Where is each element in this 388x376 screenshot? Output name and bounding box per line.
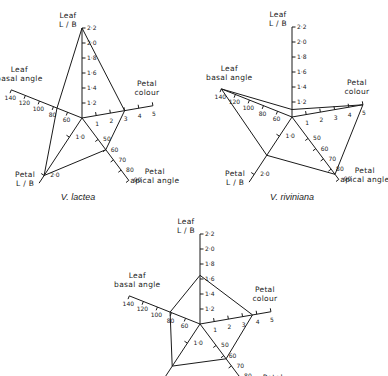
tick-label: 120 xyxy=(137,305,149,312)
axis-label: colour xyxy=(344,87,370,96)
radar-chart-third-species: 1·21·41·61·82·02·2LeafL / B12345Petalcol… xyxy=(114,217,297,376)
axis-label: L / B xyxy=(16,179,34,188)
tick-label: 60 xyxy=(273,115,281,122)
axis-label: basal angle xyxy=(114,280,161,289)
tick-label: 5 xyxy=(362,109,366,116)
tick-label: 3 xyxy=(124,115,128,122)
tick-label: 100 xyxy=(33,105,45,112)
species-caption: V. riviniana xyxy=(270,192,314,202)
axis-label: L / B xyxy=(177,226,195,235)
tick-label: 1·2 xyxy=(297,98,307,105)
axis-label: Petal xyxy=(15,170,35,179)
tick-label: 80 xyxy=(259,110,267,117)
radar-chart-v-lactea: 1·21·41·61·82·02·2LeafL / B12345Petalcol… xyxy=(0,11,179,202)
tick-label: 1·8 xyxy=(87,54,97,61)
axis-label: apical angle xyxy=(130,176,179,185)
tick-label: 50 xyxy=(313,134,321,141)
tick-label: 2·0 xyxy=(205,245,215,252)
axis-label: Leaf xyxy=(11,65,28,74)
axis-leaf-lb: 1·21·41·61·82·02·2LeafL / B xyxy=(269,10,307,117)
tick-label: 140 xyxy=(123,300,135,307)
tick-label: 100 xyxy=(243,104,255,111)
axis-label: basal angle xyxy=(206,73,253,82)
tick-label: 1·8 xyxy=(297,53,307,60)
tick-label: 70 xyxy=(118,156,126,163)
tick-label: 2·0 xyxy=(260,170,270,177)
axis-label: colour xyxy=(134,88,160,97)
axis-label: Leaf xyxy=(269,10,286,19)
axis-label: Leaf xyxy=(221,64,238,73)
axis-label: L / B xyxy=(269,19,287,28)
data-polygon xyxy=(170,275,252,366)
tick-label: 1·8 xyxy=(205,260,215,267)
species-caption: V. lactea xyxy=(61,192,95,202)
axis-leaf-lb: 1·21·41·61·82·02·2LeafL / B xyxy=(177,217,215,324)
tick-label: 4 xyxy=(348,111,352,118)
axis-petal-lb: 1·02·0PetalL / B xyxy=(133,324,203,376)
tick-label: 1·0 xyxy=(285,132,295,139)
tick-label: 1 xyxy=(213,326,217,333)
tick-label: 1·6 xyxy=(205,275,215,282)
tick-label: 1 xyxy=(95,120,99,127)
axis-label: Leaf xyxy=(177,217,194,226)
axis-leaf-basal-angle: 6080100120140Leafbasal angle xyxy=(206,64,292,122)
tick-label: 1·2 xyxy=(87,99,97,106)
axis-label: Leaf xyxy=(59,11,76,20)
tick-label: 1·2 xyxy=(205,305,215,312)
tick-label: 70 xyxy=(328,155,336,162)
tick-label: 1·4 xyxy=(297,83,307,90)
axis-petal-apical-angle: 5060708090Petalapical angle xyxy=(82,118,179,185)
axis-label: Petal xyxy=(255,285,275,294)
tick-label: 3 xyxy=(334,114,338,121)
tick-label: 2 xyxy=(227,323,231,330)
axis-petal-lb: 1·02·0PetalL / B xyxy=(225,117,295,187)
tick-label: 1·6 xyxy=(297,68,307,75)
tick-label: 70 xyxy=(236,362,244,369)
tick-label: 60 xyxy=(321,145,329,152)
tick-label: 50 xyxy=(221,341,229,348)
star-diagram-figure: 1·21·41·61·82·02·2LeafL / B12345Petalcol… xyxy=(0,0,388,376)
tick-label: 1·0 xyxy=(75,133,85,140)
axis-petal-lb: 1·02·0PetalL / B xyxy=(15,118,85,188)
tick-label: 2·2 xyxy=(297,23,307,30)
tick-label: 120 xyxy=(19,99,31,106)
axis-label: L / B xyxy=(59,20,77,29)
axis-leaf-lb: 1·21·41·61·82·02·2LeafL / B xyxy=(59,11,97,118)
data-polygon xyxy=(44,28,125,176)
axis-petal-apical-angle: 5060708090Petalapical angle xyxy=(292,117,388,184)
tick-label: 4 xyxy=(138,112,142,119)
tick-label: 2 xyxy=(109,117,113,124)
radar-chart-v-riviniana: 1·21·41·61·82·02·2LeafL / B12345Petalcol… xyxy=(206,10,388,202)
axis-label: Petal xyxy=(225,169,245,178)
tick-label: 100 xyxy=(151,311,163,318)
tick-label: 2·2 xyxy=(205,230,215,237)
tick-label: 1·0 xyxy=(193,339,203,346)
tick-label: 5 xyxy=(270,316,274,323)
axis-label: Petal xyxy=(355,166,375,175)
tick-label: 1·4 xyxy=(87,84,97,91)
tick-label: 80 xyxy=(126,166,134,173)
tick-label: 1·4 xyxy=(205,290,215,297)
axis-label: Petal xyxy=(137,79,157,88)
tick-label: 1·6 xyxy=(87,69,97,76)
axis-label: basal angle xyxy=(0,74,43,83)
tick-label: 60 xyxy=(63,116,71,123)
tick-label: 2 xyxy=(319,116,323,123)
tick-label: 60 xyxy=(181,322,189,329)
tick-label: 2·0 xyxy=(297,38,307,45)
axis-label: Petal xyxy=(347,78,367,87)
tick-label: 1 xyxy=(305,119,309,126)
tick-label: 2·2 xyxy=(87,24,97,31)
tick-label: 4 xyxy=(256,318,260,325)
axis-label: Leaf xyxy=(129,271,146,280)
tick-label: 80 xyxy=(244,372,252,376)
axis-label: Petal xyxy=(145,167,165,176)
tick-label: 60 xyxy=(111,146,119,153)
axis-label: apical angle xyxy=(340,175,388,184)
tick-label: 5 xyxy=(152,110,156,117)
axis-leaf-basal-angle: 6080100120140Leafbasal angle xyxy=(0,65,82,123)
axis-label: L / B xyxy=(226,178,244,187)
tick-label: 140 xyxy=(5,94,17,101)
axis-leaf-basal-angle: 6080100120140Leafbasal angle xyxy=(114,271,200,329)
axis-label: colour xyxy=(252,294,278,303)
